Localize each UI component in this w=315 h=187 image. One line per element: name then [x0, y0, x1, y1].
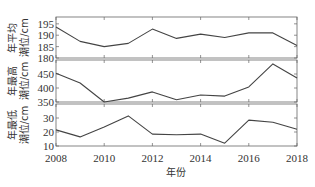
plot-frame — [56, 17, 297, 58]
y-tick-label: 180 — [38, 52, 55, 64]
y-axis-title-line1: 年最低 — [6, 110, 18, 140]
tide-level-chart: 180185190195年平均潮位/cm 350400450年最高潮位/cm 1… — [0, 0, 315, 187]
series-line — [56, 64, 297, 102]
y-tick-label: 190 — [38, 29, 55, 41]
x-axis-title: 年份 — [166, 166, 186, 178]
y-tick-label: 30 — [43, 112, 55, 124]
y-tick-label: 450 — [38, 68, 55, 80]
x-tick-label: 2018 — [286, 152, 309, 164]
y-tick-label: 185 — [38, 41, 55, 53]
y-tick-label: 195 — [38, 18, 55, 30]
series-line — [56, 116, 297, 143]
panel-annual-mean: 180185190195年平均潮位/cm — [6, 17, 297, 64]
y-axis-title-line1: 年最高 — [6, 66, 18, 96]
panel-annual-max: 350400450年最高潮位/cm — [6, 60, 297, 108]
x-axis: 200820102012201420162018 — [45, 152, 309, 164]
plot-frame — [56, 104, 297, 146]
series-line — [56, 27, 297, 47]
y-tick-label: 10 — [43, 140, 55, 152]
y-axis-title-line2: 潮位/cm — [18, 62, 30, 101]
panel-annual-min: 102030年最低潮位/cm — [6, 104, 297, 152]
y-axis-title-line2: 潮位/cm — [18, 106, 30, 145]
x-tick-label: 2010 — [93, 152, 116, 164]
x-tick-label: 2016 — [238, 152, 261, 164]
x-tick-label: 2008 — [45, 152, 68, 164]
y-axis-title-line2: 潮位/cm — [18, 18, 30, 57]
y-axis-title-line1: 年平均 — [6, 23, 18, 53]
y-tick-label: 400 — [38, 82, 55, 94]
x-tick-label: 2012 — [141, 152, 163, 164]
y-tick-label: 20 — [43, 126, 55, 138]
y-tick-label: 350 — [38, 96, 55, 108]
plot-frame — [56, 60, 297, 102]
x-tick-label: 2014 — [190, 152, 213, 164]
